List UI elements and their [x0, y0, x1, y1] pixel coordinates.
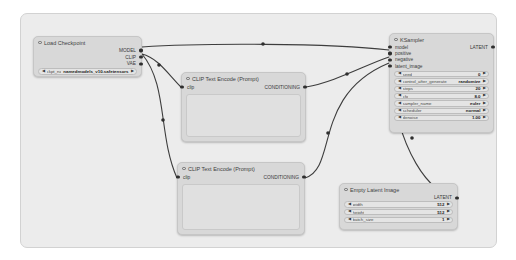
next-option-icon[interactable]: ▶: [131, 70, 134, 74]
input-slot-model[interactable]: model: [395, 45, 408, 50]
widget-value: 512: [437, 210, 444, 215]
decrement-icon[interactable]: ◀: [398, 80, 401, 84]
collapse-toggle-icon[interactable]: [344, 188, 348, 192]
slot-label: LATENT: [470, 45, 488, 50]
node-title-bar[interactable]: CLIP Text Encode (Prompt): [178, 163, 304, 173]
node-empty-latent-image[interactable]: Empty Latent Image LATENT ◀ width 512 ▶ …: [339, 183, 458, 230]
prev-option-icon[interactable]: ◀: [42, 70, 45, 74]
slot-dot-icon[interactable]: [180, 85, 183, 88]
increment-icon[interactable]: ▶: [483, 72, 486, 76]
widget-value: 8.0: [474, 94, 480, 99]
seed-widget[interactable]: ◀ seed 0 ▶: [394, 71, 489, 77]
decrement-icon[interactable]: ◀: [398, 102, 401, 106]
input-slot-latent-image[interactable]: latent_image: [390, 63, 493, 69]
output-slot-model[interactable]: MODEL: [34, 47, 141, 54]
widget-value: namedmodels_v10.safetensors: [63, 69, 128, 74]
decrement-icon[interactable]: ◀: [398, 116, 401, 120]
widget-label: seed: [403, 72, 413, 77]
widget-label: batch_size: [353, 217, 374, 222]
output-slot-vae[interactable]: VAE: [34, 61, 141, 68]
increment-icon[interactable]: ▶: [483, 102, 486, 106]
slot-label: CONDITIONING: [264, 175, 299, 180]
input-slot-clip[interactable]: clip: [187, 85, 194, 90]
widget-label: denoise: [403, 115, 418, 120]
output-slot-latent[interactable]: LATENT: [340, 194, 457, 201]
node-title-bar[interactable]: Load Checkpoint: [34, 37, 141, 47]
scheduler-widget[interactable]: ◀ scheduler normal ▶: [394, 108, 489, 114]
widget-value: randomize: [459, 79, 481, 84]
widget-value: 20: [476, 86, 481, 91]
node-title: KSampler: [400, 37, 424, 43]
slot-label: clip: [187, 85, 194, 90]
decrement-icon[interactable]: ◀: [348, 203, 351, 207]
cfg-widget[interactable]: ◀ cfg 8.0 ▶: [394, 93, 489, 99]
widget-label: sampler_name: [403, 101, 432, 106]
slot-dot-icon[interactable]: [388, 52, 391, 55]
height-widget[interactable]: ◀ height 512 ▶: [344, 209, 453, 216]
prompt-text-area[interactable]: [186, 94, 301, 137]
decrement-icon[interactable]: ◀: [398, 87, 401, 91]
sampler-name-widget[interactable]: ◀ sampler_name euler ▶: [394, 100, 489, 106]
graph-stage: Load Checkpoint MODEL CLIP VAE ◀ ckpt_na…: [0, 0, 516, 260]
decrement-icon[interactable]: ◀: [348, 218, 351, 222]
decrement-icon[interactable]: ◀: [398, 109, 401, 113]
node-title: CLIP Text Encode (Prompt): [192, 76, 259, 82]
widget-label: width: [353, 202, 363, 207]
slot-dot-icon[interactable]: [388, 46, 391, 49]
slot-label: latent_image: [395, 64, 422, 69]
increment-icon[interactable]: ▶: [447, 218, 450, 222]
output-slot-clip[interactable]: CLIP: [34, 54, 141, 61]
prompt-text-area[interactable]: [182, 184, 300, 230]
denoise-widget[interactable]: ◀ denoise 1.00 ▶: [394, 115, 489, 121]
increment-icon[interactable]: ▶: [447, 210, 450, 214]
decrement-icon[interactable]: ◀: [348, 210, 351, 214]
slot-label: clip: [183, 175, 190, 180]
widget-value: normal: [466, 108, 481, 113]
output-slot-conditioning[interactable]: CONDITIONING: [264, 175, 299, 180]
widget-label: control_after_generate: [403, 79, 447, 84]
slot-label: negative: [395, 57, 413, 62]
ckpt-name-combo[interactable]: ◀ ckpt_name namedmodels_v10.safetensors …: [38, 68, 137, 75]
node-ksampler[interactable]: KSampler model LATENT positive negative …: [389, 33, 494, 133]
slot-label: CLIP: [125, 55, 136, 60]
slot-label: VAE: [127, 61, 136, 66]
widget-value: euler: [470, 101, 481, 106]
control-after-generate-widget[interactable]: ◀ control_after_generate randomize ▶: [394, 78, 489, 84]
widget-label: steps: [403, 86, 414, 91]
node-clip-text-encode-negative[interactable]: CLIP Text Encode (Prompt) clip CONDITION…: [177, 162, 305, 235]
decrement-icon[interactable]: ◀: [398, 72, 401, 76]
collapse-toggle-icon[interactable]: [186, 77, 190, 81]
node-clip-text-encode-positive[interactable]: CLIP Text Encode (Prompt) clip CONDITION…: [181, 72, 306, 142]
node-title-bar[interactable]: KSampler: [390, 34, 493, 44]
node-title-bar[interactable]: CLIP Text Encode (Prompt): [182, 73, 305, 83]
input-slot-clip[interactable]: clip: [183, 175, 190, 180]
slot-dot-icon[interactable]: [388, 64, 391, 67]
increment-icon[interactable]: ▶: [483, 109, 486, 113]
slot-dot-icon[interactable]: [176, 175, 179, 178]
increment-icon[interactable]: ▶: [483, 80, 486, 84]
widget-value: 1: [442, 217, 444, 222]
collapse-toggle-icon[interactable]: [38, 41, 42, 45]
widget-label: scheduler: [403, 108, 422, 113]
output-slot-latent[interactable]: LATENT: [470, 45, 488, 50]
widget-label: cfg: [403, 94, 409, 99]
node-load-checkpoint[interactable]: Load Checkpoint MODEL CLIP VAE ◀ ckpt_na…: [33, 36, 142, 77]
increment-icon[interactable]: ▶: [483, 87, 486, 91]
widget-label: ckpt_name: [47, 69, 62, 74]
node-title: Empty Latent Image: [350, 187, 399, 193]
batch-size-widget[interactable]: ◀ batch_size 1 ▶: [344, 217, 453, 224]
node-title-bar[interactable]: Empty Latent Image: [340, 184, 457, 194]
increment-icon[interactable]: ▶: [447, 203, 450, 207]
width-widget[interactable]: ◀ width 512 ▶: [344, 201, 453, 208]
collapse-toggle-icon[interactable]: [182, 167, 186, 171]
collapse-toggle-icon[interactable]: [394, 38, 398, 42]
slot-row: clip CONDITIONING: [178, 173, 304, 181]
slot-dot-icon[interactable]: [388, 58, 391, 61]
slot-label: LATENT: [434, 195, 452, 200]
decrement-icon[interactable]: ◀: [398, 94, 401, 98]
increment-icon[interactable]: ▶: [483, 94, 486, 98]
slot-row: clip CONDITIONING: [182, 83, 305, 91]
increment-icon[interactable]: ▶: [483, 116, 486, 120]
steps-widget[interactable]: ◀ steps 20 ▶: [394, 86, 489, 92]
output-slot-conditioning[interactable]: CONDITIONING: [265, 85, 300, 90]
